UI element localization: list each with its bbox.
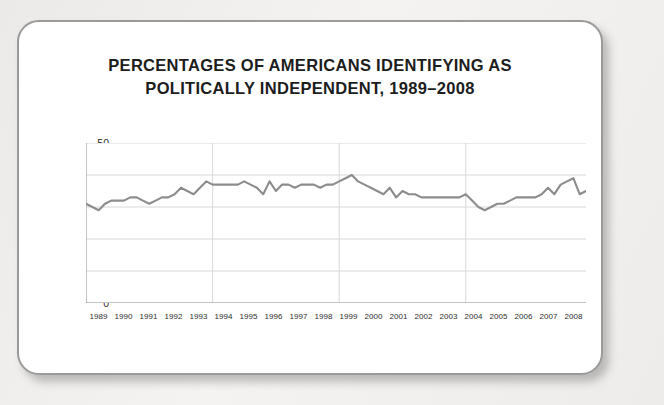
x-axis-tick-label: 2005 [486,312,511,328]
x-axis-tick-label: 2002 [411,312,436,328]
x-axis-tick-label: 1996 [261,312,286,328]
x-axis-tick-label: 1994 [211,312,236,328]
x-axis-tick-label: 2006 [511,312,536,328]
x-axis-tick-label: 1990 [111,312,136,328]
x-axis-tick-label: 1991 [136,312,161,328]
x-axis-tick-label: 2004 [461,312,486,328]
chart-title-line-2: POLITICALLY INDEPENDENT, 1989–2008 [19,77,601,100]
x-axis-tick-label: 2008 [561,312,586,328]
x-axis-tick-label: 1998 [311,312,336,328]
plot-area [86,143,586,303]
x-axis-tick-label: 1993 [186,312,211,328]
x-axis-tick-label: 2003 [436,312,461,328]
x-axis-tick-label: 1989 [86,312,111,328]
x-axis-tick-label: 2001 [386,312,411,328]
chart-card: PERCENTAGES OF AMERICANS IDENTIFYING AS … [17,20,603,375]
x-axis-tick-label: 2007 [536,312,561,328]
x-axis-tick-label: 1992 [161,312,186,328]
x-axis-tick-label: 1995 [236,312,261,328]
x-axis-tick-label: 1999 [336,312,361,328]
x-axis-tick-labels: 1989199019911992199319941995199619971998… [86,312,586,328]
chart-title-line-1: PERCENTAGES OF AMERICANS IDENTIFYING AS [19,54,601,77]
plot-background [86,143,586,303]
line-chart-svg [86,143,586,303]
x-axis-tick-label: 2000 [361,312,386,328]
x-axis-tick-label: 1997 [286,312,311,328]
chart-title: PERCENTAGES OF AMERICANS IDENTIFYING AS … [19,54,601,100]
